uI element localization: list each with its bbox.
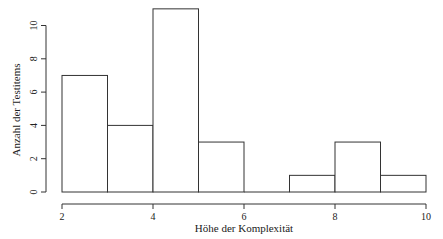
y-tick-label: 2	[28, 156, 39, 161]
y-tick-label: 6	[28, 90, 39, 95]
x-axis: 246810	[60, 204, 432, 222]
histogram-bar	[199, 142, 245, 192]
histogram-bar	[108, 125, 154, 192]
y-tick-label: 10	[28, 21, 39, 31]
y-tick-label: 8	[28, 56, 39, 61]
y-axis: 0246810	[28, 21, 46, 195]
x-axis-label: Höhe der Komplexität	[195, 222, 293, 234]
histogram-bars	[62, 9, 426, 192]
x-tick-label: 10	[421, 211, 431, 222]
y-axis-label: Anzahl der Testitems	[10, 63, 22, 156]
histogram-bar	[335, 142, 381, 192]
x-tick-label: 4	[151, 211, 156, 222]
histogram-chart: 0246810 246810 Höhe der Komplexität Anza…	[0, 0, 443, 239]
y-tick-label: 4	[28, 123, 39, 128]
histogram-bar	[290, 175, 336, 192]
x-tick-label: 8	[333, 211, 338, 222]
histogram-bar	[62, 75, 108, 192]
y-tick-label: 0	[28, 190, 39, 195]
histogram-bar	[381, 175, 427, 192]
x-tick-label: 2	[60, 211, 65, 222]
histogram-bar	[153, 9, 199, 192]
x-tick-label: 6	[242, 211, 247, 222]
